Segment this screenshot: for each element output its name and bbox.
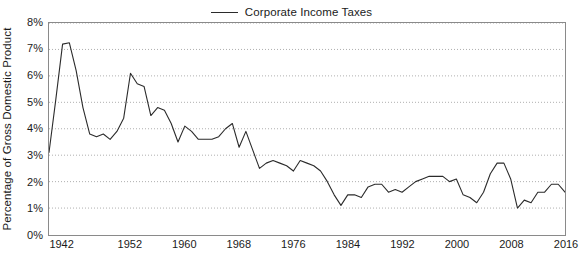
y-axis-tick-label: 1% [27, 203, 43, 214]
y-axis-tick-label: 6% [27, 70, 43, 81]
plot-area [48, 22, 566, 236]
y-axis-tick-label: 3% [27, 150, 43, 161]
y-axis-tick-label: 7% [27, 43, 43, 54]
x-axis-tick-label: 1952 [118, 239, 142, 250]
x-axis-tick-label: 1968 [227, 239, 251, 250]
chart-container: Corporate Income Taxes Percentage of Gro… [0, 0, 583, 261]
legend-label-corporate-income-taxes: Corporate Income Taxes [245, 6, 372, 18]
x-axis-tick-label: 1960 [172, 239, 196, 250]
x-axis-tick-label: 1984 [336, 239, 360, 250]
x-axis-tick-labels: 1942195219601968197619841992200020082016 [0, 239, 583, 255]
y-axis-title: Percentage of Gross Domestic Product [0, 22, 14, 236]
series-line-corporate-income-taxes [49, 43, 565, 208]
y-axis-tick-label: 4% [27, 123, 43, 134]
x-axis-tick-label: 1992 [390, 239, 414, 250]
x-axis-tick-label: 1942 [49, 239, 73, 250]
y-axis-title-text: Percentage of Gross Domestic Product [1, 27, 13, 230]
x-axis-tick-label: 2008 [499, 239, 523, 250]
y-axis-tick-label: 5% [27, 97, 43, 108]
y-axis-tick-labels: 8%7%6%5%4%3%2%1%0% [14, 0, 46, 261]
legend-line-swatch-corporate-income-taxes [211, 12, 238, 13]
y-axis-tick-label: 2% [27, 177, 43, 188]
data-line-chart [49, 23, 565, 235]
x-axis-tick-label: 1976 [281, 239, 305, 250]
chart-legend: Corporate Income Taxes [0, 4, 583, 20]
y-axis-tick-label: 8% [27, 17, 43, 28]
x-axis-tick-label: 2000 [445, 239, 469, 250]
x-axis-tick-label: 2016 [554, 239, 578, 250]
